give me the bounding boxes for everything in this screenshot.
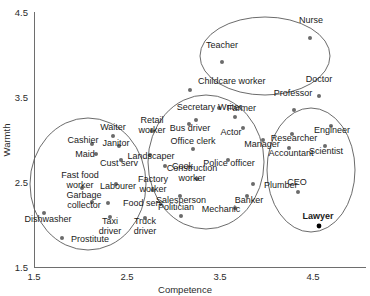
point-label: Taxidriver [99, 216, 122, 236]
point-label: Teacher [206, 40, 238, 50]
data-point-marker[interactable] [191, 147, 195, 151]
data-point-marker[interactable] [308, 36, 312, 40]
point-label: Politician [158, 202, 194, 212]
point-label: Fast foodworker [61, 170, 99, 190]
y-tick-label: 3.5 [15, 92, 28, 103]
y-tick-label: 4.5 [15, 7, 28, 18]
point-label: Cust serv [100, 158, 139, 168]
point-label: Doctor [306, 74, 333, 84]
point-label: Constructionworker [167, 163, 218, 183]
data-point-marker[interactable] [106, 201, 110, 205]
point-label: Factoryworker [138, 174, 169, 194]
y-tick-label: 1.5 [15, 262, 28, 273]
point-labels-group: TeacherNurseChildcare workerDoctorFarmer… [24, 15, 350, 244]
point-label: Labourer [100, 181, 136, 191]
point-label: Lawyer [302, 211, 334, 221]
point-label: Waiter [100, 122, 126, 132]
y-axis-title: Warmth [1, 124, 12, 157]
point-label: CEO [287, 177, 307, 187]
data-point-marker[interactable] [292, 108, 296, 112]
data-point-marker[interactable] [317, 94, 321, 98]
point-label: Writer [218, 102, 242, 112]
x-tick-label: 2.5 [120, 271, 133, 282]
point-label: Researcher [271, 133, 318, 143]
data-point-marker[interactable] [317, 224, 322, 229]
point-label: Garbagecollector [66, 190, 101, 210]
point-label: Professor [274, 88, 313, 98]
y-tick-label: 2.5 [15, 177, 28, 188]
data-point-marker[interactable] [188, 88, 192, 92]
point-label: Engineer [314, 125, 350, 135]
point-label: Actor [220, 127, 241, 137]
point-label: Truckdriver [134, 216, 157, 236]
point-label: Bus driver [170, 123, 211, 133]
point-label: Scientist [309, 146, 344, 156]
x-axis-title: Competence [158, 284, 212, 295]
point-label: Mechanic [202, 204, 241, 214]
data-point-marker[interactable] [233, 115, 237, 119]
point-label: Nurse [299, 15, 323, 25]
data-point-marker[interactable] [241, 126, 245, 130]
point-label: Janitor [102, 138, 129, 148]
point-label: Accountant [268, 148, 314, 158]
plot-canvas: 1.52.53.54.51.52.53.54.5 CompetenceWarmt… [0, 0, 370, 296]
x-tick-label: 1.5 [27, 271, 40, 282]
data-point-marker[interactable] [251, 182, 255, 186]
point-label: Childcare worker [198, 76, 266, 86]
point-label: Office clerk [171, 136, 216, 146]
point-label: Cashier [67, 135, 98, 145]
point-label: Maid [75, 149, 95, 159]
point-label: Dishwasher [24, 214, 71, 224]
point-label: Secretary [177, 102, 216, 112]
point-label: Retailworker [137, 115, 165, 135]
data-point-marker[interactable] [60, 236, 64, 240]
data-point-marker[interactable] [194, 118, 198, 122]
point-label: Prostitute [71, 234, 109, 244]
data-point-marker[interactable] [220, 60, 224, 64]
data-point-marker[interactable] [179, 214, 183, 218]
data-point-marker[interactable] [296, 190, 300, 194]
x-tick-label: 3.5 [213, 271, 226, 282]
scatter-plot-figure: 1.52.53.54.51.52.53.54.5 CompetenceWarmt… [0, 0, 370, 296]
x-tick-label: 4.5 [306, 271, 319, 282]
